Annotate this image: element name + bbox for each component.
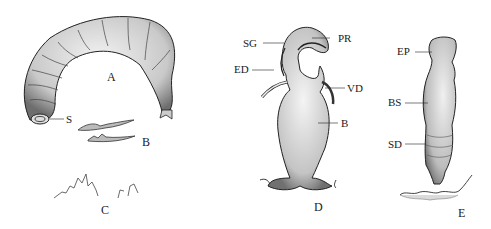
callout-PR: PR — [338, 33, 351, 44]
callout-BS: BS — [388, 97, 401, 108]
callout-VD: VD — [347, 83, 363, 94]
panel-label-D: D — [314, 202, 323, 213]
spines-drawing — [54, 174, 138, 198]
female-organ-drawing — [400, 37, 472, 200]
scientific-figure: S A B C SG PR ED VD B D EP BS SD E — [0, 0, 491, 229]
callout-S: S — [66, 114, 72, 125]
panel-label-B: B — [142, 137, 150, 148]
figure-drawing — [0, 0, 491, 229]
panel-label-E: E — [458, 208, 465, 219]
callout-EP: EP — [397, 46, 410, 57]
callout-SD: SD — [388, 139, 402, 150]
panel-label-A: A — [107, 72, 116, 83]
mouth-hooks-drawing — [78, 120, 135, 142]
callout-ED: ED — [234, 64, 249, 75]
callout-SG: SG — [243, 38, 257, 49]
larva-drawing — [24, 17, 174, 124]
callout-B-bladder: B — [341, 118, 348, 129]
panel-label-C: C — [101, 205, 109, 216]
male-organ-drawing — [252, 27, 345, 189]
